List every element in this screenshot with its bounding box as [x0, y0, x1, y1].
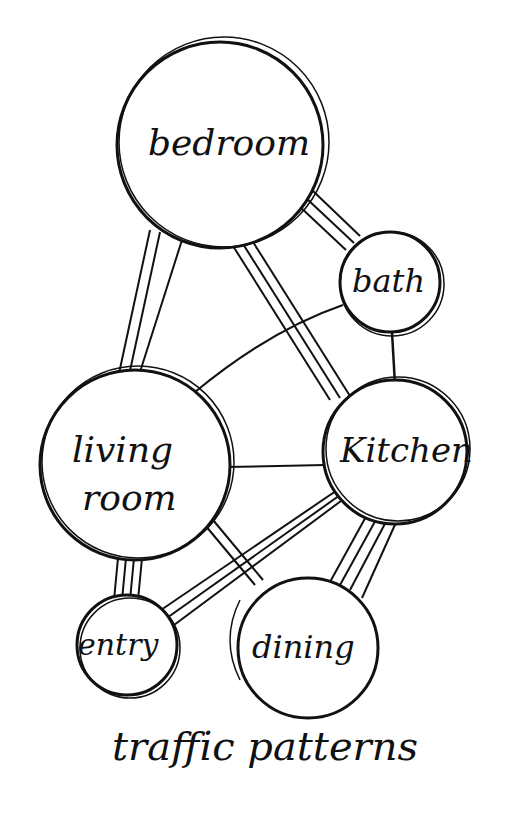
diagram-title: traffic patterns [112, 723, 418, 769]
node-dining: dining [230, 578, 378, 718]
edge-bedroom-kitchen [228, 234, 350, 400]
kitchen-label: Kitchen [339, 430, 473, 470]
dining-label: dining [252, 628, 355, 666]
entry-label: entry [78, 627, 159, 662]
room-label: room [82, 477, 177, 518]
traffic-pattern-diagram: bedroom bath living room Kitchen entry d… [0, 0, 513, 821]
node-bedroom: bedroom [117, 37, 329, 248]
bath-label: bath [352, 262, 425, 300]
node-bath: bath [340, 232, 444, 336]
edge-living-kitchen [225, 465, 325, 467]
node-living-room: living room [40, 366, 234, 560]
living-label: living [72, 429, 173, 470]
node-kitchen: Kitchen [323, 377, 473, 524]
edge-bedroom-living [118, 230, 182, 380]
bedroom-label: bedroom [148, 122, 310, 163]
node-entry: entry [77, 595, 180, 698]
